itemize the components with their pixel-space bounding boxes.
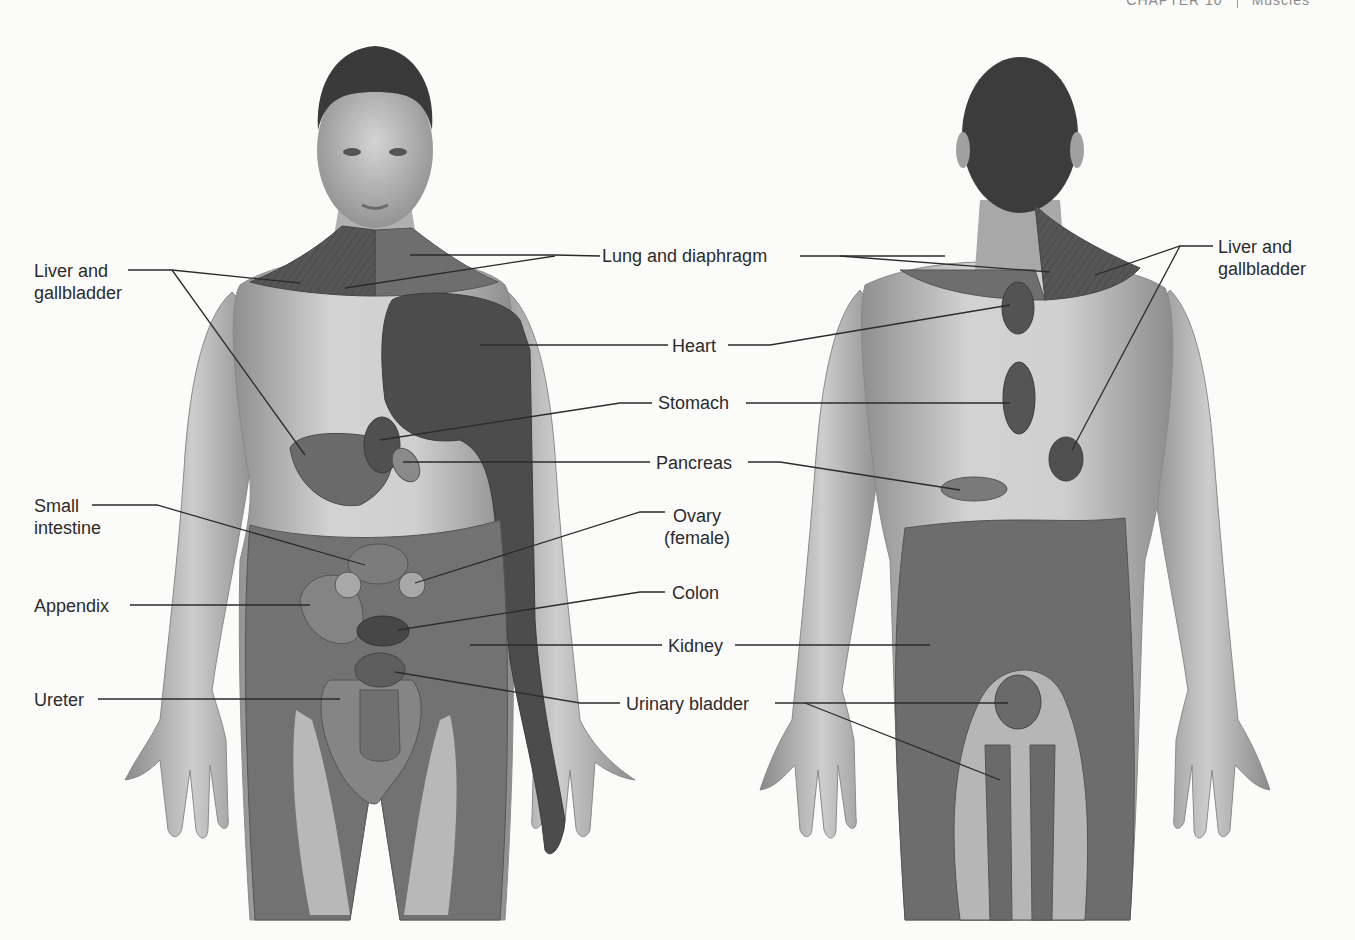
back-urinary-bladder-region xyxy=(995,675,1041,729)
posterior-figure xyxy=(760,57,1270,920)
back-head xyxy=(962,57,1078,213)
label-appendix: Appendix xyxy=(34,595,109,617)
label-colon: Colon xyxy=(672,582,719,604)
front-ovary-right-region xyxy=(335,572,361,598)
front-ovary-left-region xyxy=(399,572,425,598)
label-ovary: Ovary (female) xyxy=(664,505,730,549)
label-pancreas: Pancreas xyxy=(656,452,732,474)
front-colon-region xyxy=(357,616,409,646)
back-heart-region xyxy=(1002,282,1034,334)
front-liver-gallbladder-neck-region xyxy=(250,226,375,296)
label-urinary-bladder: Urinary bladder xyxy=(626,693,749,715)
back-stomach-region xyxy=(1003,362,1035,434)
back-ureter-thigh-region xyxy=(985,745,1012,920)
label-small-intestine: Small intestine xyxy=(34,495,101,539)
front-lung-diaphragm-region xyxy=(375,228,498,296)
label-lung-diaphragm: Lung and diaphragm xyxy=(602,245,767,267)
back-liver-gallbladder-region xyxy=(1049,437,1083,481)
anterior-figure xyxy=(125,46,635,920)
label-ureter: Ureter xyxy=(34,689,84,711)
label-kidney: Kidney xyxy=(668,635,723,657)
label-heart: Heart xyxy=(672,335,716,357)
front-urinary-bladder-region xyxy=(355,653,405,687)
label-liver-gallbladder-back: Liver and gallbladder xyxy=(1218,236,1306,280)
label-liver-gallbladder-front: Liver and gallbladder xyxy=(34,260,122,304)
label-stomach: Stomach xyxy=(658,392,729,414)
